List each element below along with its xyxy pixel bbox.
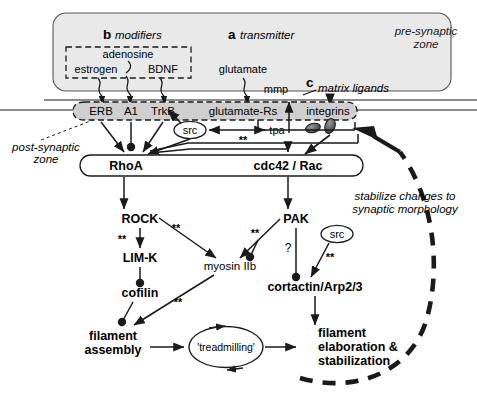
- cdc42-rac-label[interactable]: cdc42 / Rac: [254, 159, 323, 173]
- ligand-glutamate-label: glutamate: [219, 63, 267, 75]
- receptor-trkb-label[interactable]: TrkB: [151, 105, 175, 117]
- integrin-vesicle-left: [305, 122, 322, 135]
- filament-elaboration-label-line2: elaboration &: [318, 340, 398, 354]
- stabilize-annotation-line2: synaptic morphology: [352, 203, 459, 215]
- limk-label[interactable]: LIM-K: [123, 251, 158, 265]
- panel-letter-b: b: [103, 27, 111, 42]
- star-src-cortactin-label: **: [326, 251, 335, 263]
- post-synaptic-zone-label-line2: zone: [33, 153, 59, 165]
- rhoa-label[interactable]: RhoA: [109, 159, 142, 173]
- feedback-loop-arrowhead: [352, 126, 378, 140]
- pre-synaptic-zone-footnote-marker: °: [451, 34, 454, 43]
- treadmilling-label: 'treadmilling': [197, 341, 255, 353]
- cortactin-arp-label[interactable]: cortactin/Arp2/3: [267, 280, 362, 294]
- question-pak-label: ?: [285, 241, 292, 255]
- ligand-bdnf-label: BDNF: [148, 63, 178, 75]
- cofilin-label[interactable]: cofilin: [122, 286, 159, 300]
- receptor-glutamate-rs-label[interactable]: glutamate-Rs: [209, 105, 278, 117]
- filament-assembly-label-line1: filament: [89, 329, 138, 343]
- pre-synaptic-zone-label-line2: zone: [413, 38, 439, 50]
- star-rock-myosin-label: **: [172, 222, 181, 234]
- pre-synaptic-zone-label-line1: pre-synaptic: [394, 25, 458, 37]
- pak-label[interactable]: PAK: [283, 212, 308, 226]
- trkb-to-rhoa-arrow: [143, 122, 163, 152]
- pathway-diagram: pre-synaptic zone ° b modifiers adenosin…: [0, 0, 477, 397]
- figure-canvas: pre-synaptic zone ° b modifiers adenosin…: [0, 0, 477, 397]
- star-rock-limk-label: **: [118, 233, 127, 245]
- panel-letter-a: a: [228, 27, 236, 42]
- ligand-mmp-label: mmp: [264, 83, 288, 95]
- feed-to-cdc42-arrow: [150, 149, 288, 153]
- cofilin-to-assembly-inhibit: [122, 302, 133, 322]
- star-cofilin-label: **: [174, 296, 183, 308]
- star-pak-myosin-label: **: [251, 227, 260, 239]
- src-upper-label: src: [183, 124, 198, 136]
- panel-title-transmitter: transmitter: [240, 29, 295, 41]
- filament-elaboration-label-line1: filament: [318, 326, 367, 340]
- pak-to-myosin-arrow: [240, 219, 280, 258]
- panel-title-modifiers: modifiers: [115, 29, 162, 41]
- rock-label[interactable]: ROCK: [122, 212, 159, 226]
- rock-to-myosin-arrow: [159, 218, 216, 258]
- receptor-erb-label[interactable]: ERB: [89, 105, 113, 117]
- erb-to-rhoa-arrow: [101, 122, 124, 152]
- receptor-integrins-label[interactable]: integrins: [306, 105, 350, 117]
- treadmilling-arrow-bottom: [227, 368, 243, 370]
- filament-assembly-label-line2: assembly: [85, 343, 142, 357]
- post-synaptic-zone-label-line1: post-synaptic: [11, 141, 80, 153]
- stabilize-annotation-line1: stabilize changes to: [354, 190, 456, 202]
- receptor-a1-label[interactable]: A1: [124, 105, 138, 117]
- filament-elaboration-label-line3: stabilization: [318, 354, 390, 368]
- integrin-to-cdc42-arrow: [305, 135, 330, 154]
- panel-title-matrix-ligands: matrix ligands: [318, 82, 389, 94]
- myosin-iib-label[interactable]: myosin IIb: [204, 260, 256, 272]
- src-lower-label: src: [330, 228, 345, 240]
- pak-to-myosin-inhibit: [250, 240, 258, 257]
- ligand-estrogen-label: estrogen: [75, 63, 118, 75]
- panel-letter-c: c: [306, 75, 314, 90]
- ligand-adenosine-label: adenosine: [103, 48, 154, 60]
- post-synaptic-leader-line: [41, 120, 93, 140]
- star-membrane-label: **: [239, 134, 248, 146]
